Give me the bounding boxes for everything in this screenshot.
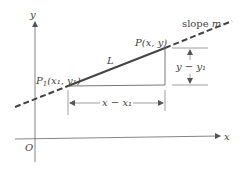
line-segment-l — [68, 48, 165, 86]
x-axis — [15, 136, 220, 139]
origin-label: O — [25, 142, 33, 153]
point-slope-diagram: y x O x − x₁ y − y₁ P1(x₁, y₁) P(x, y) L… — [0, 0, 242, 169]
dx-label: x − x₁ — [102, 97, 132, 108]
dy-label: y − y₁ — [175, 61, 206, 72]
line-dashed-left — [15, 86, 68, 107]
horizontal-leg — [68, 85, 165, 86]
line-label: L — [106, 55, 114, 66]
x-axis-label: x — [224, 131, 230, 142]
slope-label: slope m — [182, 18, 221, 29]
p-label: P(x, y) — [134, 37, 167, 48]
y-axis-label: y — [29, 9, 36, 20]
